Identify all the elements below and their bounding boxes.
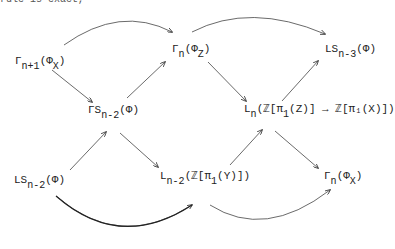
arrow-ln-to-gamma-x: [275, 131, 318, 168]
node-gamma-n-phiZ: Γn(ΦZ): [172, 44, 210, 60]
arrow-ls2-to-gs: [70, 132, 106, 170]
arrow-ln2-to-ln: [230, 130, 262, 165]
node-gamma-n1-phiX: Γn+1(ΦX): [15, 56, 65, 72]
arrow-curve-gamma-n1-to-gamma-n: [64, 21, 172, 45]
node-LS-n2: LSn-2(Φ): [14, 175, 65, 191]
arrow-curve-ls2-to-ln2-thick: [56, 196, 192, 226]
node-gamma-n-phiX: Γn(ΦX): [324, 171, 362, 187]
arrow-curve-ln2-to-gamma-x: [210, 190, 330, 219]
arrow-ln-to-ls3: [282, 61, 318, 101]
arrow-gamma-n1-to-gs: [52, 70, 92, 102]
node-GS-n2: ΓSn-2(Φ): [88, 105, 139, 121]
node-L-n2-Y: Ln-2(ℤ[π1(Y)]): [160, 171, 250, 187]
node-L-n-Z: Ln(ℤ[π1(Z)] → ℤ[π₁(X)]): [244, 104, 395, 120]
arrow-gamma-n-to-ln: [208, 62, 246, 101]
node-LS-n3: LSn-3(Φ): [325, 44, 376, 60]
arrow-gs-to-ln2: [120, 133, 158, 167]
arrow-curve-gamma-n-to-ls3: [192, 17, 325, 34]
arrow-gs-to-gamma-n: [127, 62, 165, 98]
